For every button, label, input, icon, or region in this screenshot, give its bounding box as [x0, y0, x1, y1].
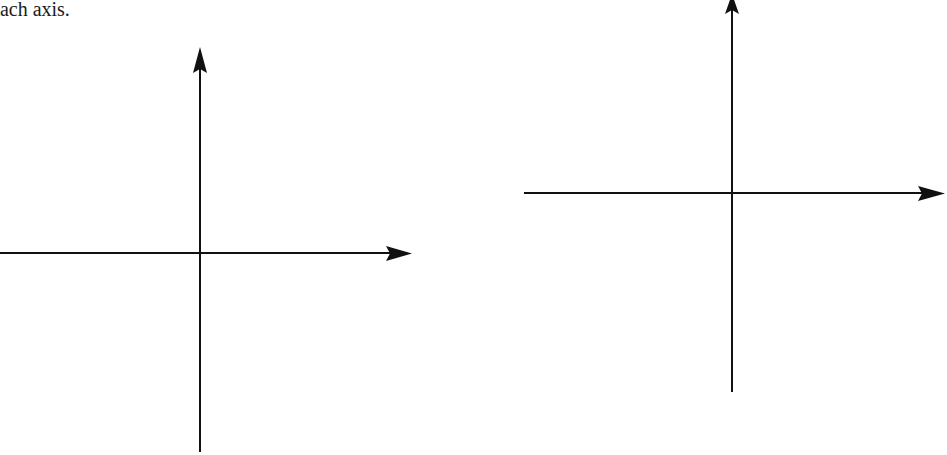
left-axes-diagram	[0, 47, 412, 452]
right-axes-diagram	[524, 0, 945, 392]
axes-figure	[0, 0, 947, 455]
right-x-axis-arrowhead-icon	[918, 186, 945, 201]
